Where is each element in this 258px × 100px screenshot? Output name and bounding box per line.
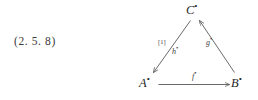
- vertex-B-bullet: •: [239, 74, 242, 84]
- edge-g-line: [200, 21, 235, 73]
- vertex-A: A•: [139, 76, 150, 91]
- vertex-A-bullet: •: [147, 74, 150, 84]
- edge-label-g-bullet: •: [210, 35, 212, 42]
- vertex-C-bullet: •: [194, 1, 197, 11]
- edge-label-g: g•: [206, 38, 212, 47]
- edge-label-h: h•: [172, 47, 178, 56]
- commutative-diagram: C• A• B• h• g• f• [1]: [130, 0, 258, 100]
- figure-canvas: (2. 5. 8) C• A• B• h•: [0, 0, 258, 100]
- edge-label-f: f•: [192, 72, 197, 81]
- annotation-bracket-one: [1]: [158, 38, 166, 45]
- edge-label-f-bullet: •: [194, 69, 196, 76]
- vertex-B: B•: [231, 76, 242, 91]
- vertex-C: C•: [186, 3, 198, 18]
- vertex-B-label: B: [231, 76, 239, 90]
- edge-label-h-bullet: •: [176, 44, 178, 51]
- equation-number: (2. 5. 8): [14, 35, 56, 47]
- vertex-A-label: A: [139, 76, 147, 90]
